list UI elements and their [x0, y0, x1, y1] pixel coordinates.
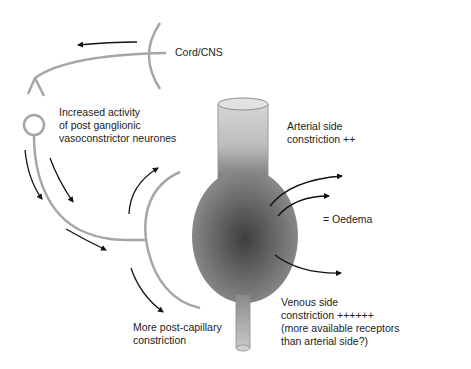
label-cord-cns: Cord/CNS	[175, 46, 223, 59]
label-increased-activity: Increased activity of post ganglionic va…	[59, 106, 176, 145]
preganglionic-axon	[28, 53, 166, 96]
diagram-canvas	[0, 0, 471, 369]
neurone-cell-body	[24, 115, 44, 135]
capillary-bulb	[192, 169, 298, 303]
label-post-capillary: More post-capillary constriction	[133, 321, 222, 347]
afferent-arrow-icon	[78, 42, 137, 45]
postganglionic-axon	[34, 135, 145, 240]
arteriole-tube	[218, 104, 268, 180]
arteriole-opening	[218, 98, 268, 110]
label-venous-constriction: Venous side constriction ++++++ (more av…	[281, 296, 399, 348]
conduction-arrows-icon	[25, 150, 163, 312]
nerve-terminal-arc	[145, 172, 200, 308]
cord-cns-arc	[149, 23, 160, 89]
label-oedema: = Oedema	[323, 213, 372, 226]
label-arterial-constriction: Arterial side constriction ++	[287, 120, 355, 146]
venule-tube	[236, 295, 250, 351]
